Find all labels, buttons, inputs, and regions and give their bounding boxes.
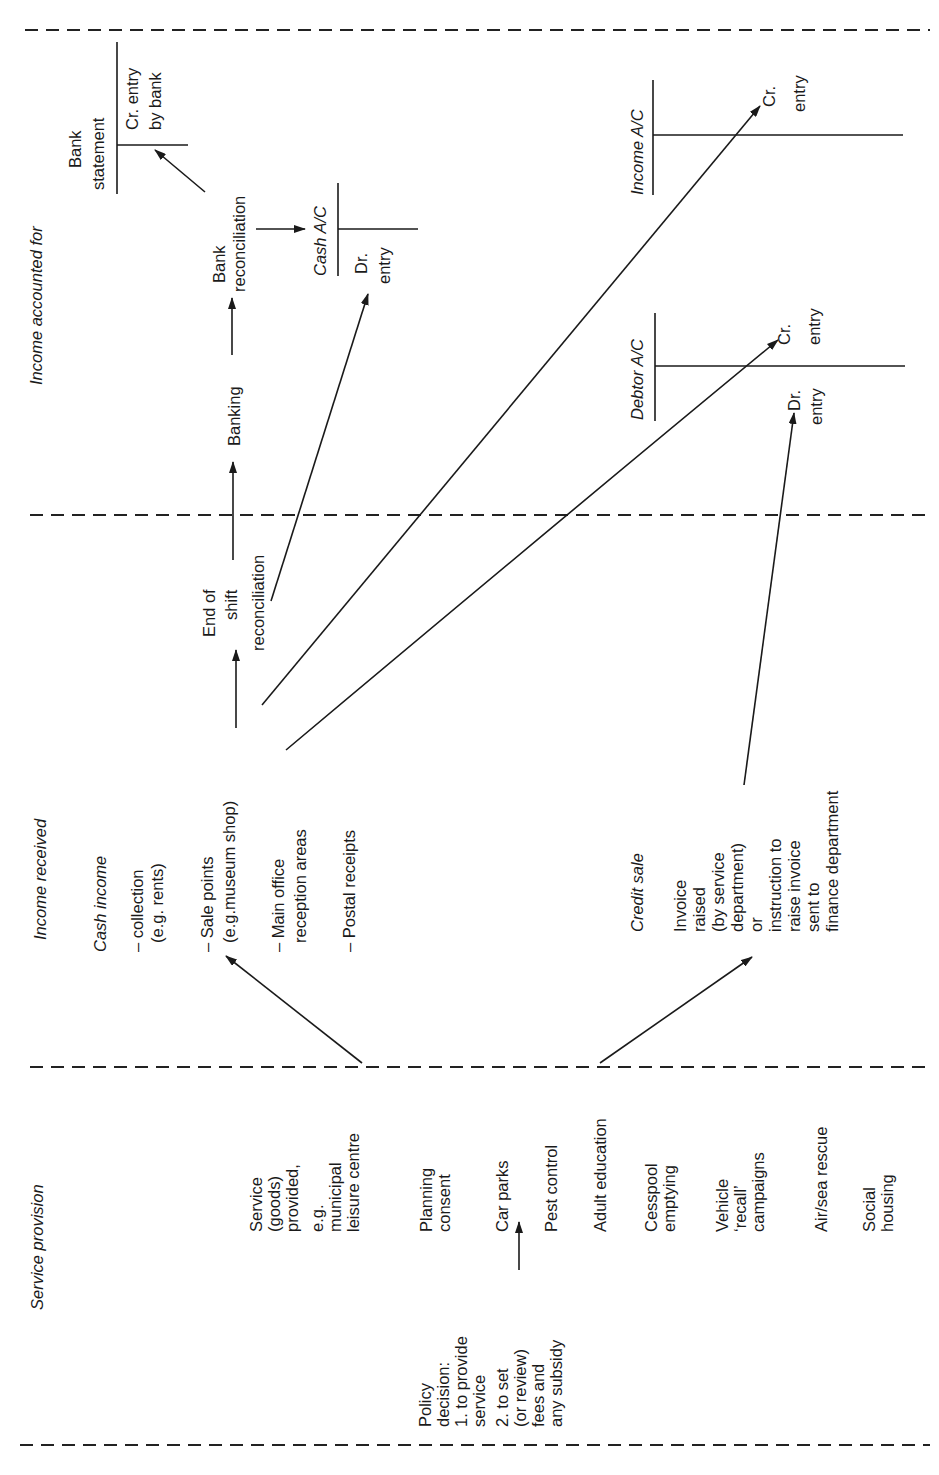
svg-text:consent: consent: [435, 1174, 453, 1232]
section-title-provision: Service provision: [28, 1184, 46, 1310]
svg-text:Car parks: Car parks: [493, 1160, 511, 1232]
svg-text:decision:: decision:: [434, 1362, 452, 1427]
svg-text:reconciliation: reconciliation: [230, 196, 248, 292]
svg-text:(e.g. rents): (e.g. rents): [148, 863, 166, 943]
svg-text:– Main office: – Main office: [269, 859, 287, 952]
svg-text:Income A/C: Income A/C: [628, 109, 646, 195]
credit-sale: Credit sale Invoice raised (by service d…: [628, 790, 841, 932]
svg-text:Invoice: Invoice: [671, 880, 689, 932]
svg-text:Adult education: Adult education: [591, 1118, 609, 1232]
svg-text:any subsidy: any subsidy: [547, 1339, 565, 1427]
policy-decision: Policy decision: 1. to provide service 2…: [416, 1336, 565, 1427]
banking-label: Banking: [225, 386, 243, 446]
svg-text:Cr.: Cr.: [760, 86, 778, 107]
svg-text:reconciliation: reconciliation: [249, 555, 267, 651]
arrow-service-to-credit: [600, 957, 752, 1063]
svg-text:housing: housing: [878, 1174, 896, 1232]
svg-text:Debtor A/C: Debtor A/C: [628, 339, 646, 420]
svg-text:– Sale points: – Sale points: [198, 857, 216, 952]
svg-text:Policy: Policy: [416, 1382, 434, 1427]
section-title-accounted: Income accounted for: [27, 225, 45, 385]
cash-ac-t-account: Cash A/C Dr. entry: [311, 183, 418, 284]
svg-text:department): department): [728, 843, 746, 932]
svg-text:Cesspool: Cesspool: [642, 1163, 660, 1232]
svg-text:or: or: [747, 917, 765, 932]
svg-text:(e.g.museum shop): (e.g.museum shop): [220, 801, 238, 943]
svg-text:reception areas: reception areas: [291, 829, 309, 943]
income-flow-diagram: Income accounted for Income received Ser…: [0, 0, 939, 1475]
cash-income: Cash income – collection (e.g. rents) – …: [91, 801, 358, 952]
svg-text:Pest control: Pest control: [542, 1145, 560, 1232]
svg-text:shift: shift: [222, 589, 240, 620]
svg-text:emptying: emptying: [660, 1165, 678, 1232]
svg-text:sent to: sent to: [804, 882, 822, 932]
end-of-shift: End of shift reconciliation: [200, 555, 267, 651]
arrow-reconciliation-to-statement: [155, 150, 205, 192]
svg-text:by bank: by bank: [146, 71, 164, 130]
arrow-cash-to-debtor-cr: [286, 340, 778, 750]
svg-text:entry: entry: [807, 388, 825, 425]
svg-text:service: service: [470, 1375, 488, 1427]
svg-text:Cr.: Cr.: [775, 324, 793, 345]
svg-text:Cr. entry: Cr. entry: [123, 67, 141, 130]
svg-text:– Postal receipts: – Postal receipts: [340, 830, 358, 952]
arrow-service-to-cash: [226, 956, 362, 1063]
svg-text:finance department: finance department: [823, 790, 841, 932]
svg-text:leisure centre: leisure centre: [344, 1133, 362, 1232]
service-list: Service (goods) provided, e.g. municipal…: [247, 1118, 896, 1232]
debtor-ac-t-account: Debtor A/C Dr. entry Cr. entry: [628, 308, 905, 425]
svg-text:Social: Social: [860, 1187, 878, 1232]
income-ac-t-account: Income A/C Cr. entry: [628, 75, 903, 195]
arrow-credit-to-debtor-dr: [744, 413, 794, 785]
svg-text:– collection: – collection: [128, 869, 146, 952]
svg-text:provided,: provided,: [283, 1164, 301, 1232]
arrow-shift-to-cash-dr: [271, 294, 368, 601]
svg-text:raised: raised: [690, 887, 708, 932]
svg-text:entry: entry: [790, 75, 808, 112]
arrow-cash-to-income-cr: [262, 106, 760, 705]
svg-text:Dr.: Dr.: [352, 253, 370, 274]
svg-text:e.g.: e.g.: [308, 1204, 326, 1232]
svg-text:Planning: Planning: [417, 1168, 435, 1232]
svg-text:Cash income: Cash income: [91, 856, 109, 952]
bank-reconciliation: Bank reconciliation: [210, 196, 248, 292]
svg-text:Service provision: Service provision: [28, 1184, 46, 1310]
svg-text:raise invoice: raise invoice: [785, 840, 803, 932]
svg-text:‘recall’: ‘recall’: [731, 1185, 749, 1232]
svg-text:1. to provide: 1. to provide: [452, 1336, 470, 1427]
svg-text:(by service: (by service: [709, 852, 727, 932]
section-title-received: Income received: [31, 818, 49, 940]
svg-text:statement: statement: [89, 117, 107, 190]
svg-text:Bank: Bank: [210, 245, 228, 283]
svg-text:(or review): (or review): [511, 1349, 529, 1427]
svg-text:Bank: Bank: [66, 130, 84, 168]
svg-text:Vehicle: Vehicle: [713, 1179, 731, 1232]
svg-text:Service: Service: [247, 1177, 265, 1232]
svg-text:End of: End of: [200, 589, 218, 637]
bank-statement-t-account: Bank statement Cr. entry by bank: [66, 42, 188, 194]
svg-text:campaigns: campaigns: [749, 1152, 767, 1232]
svg-text:2. to set: 2. to set: [493, 1368, 511, 1427]
svg-text:entry: entry: [375, 247, 393, 284]
svg-text:Credit sale: Credit sale: [628, 853, 646, 932]
svg-text:Dr.: Dr.: [785, 390, 803, 411]
svg-text:Air/sea rescue: Air/sea rescue: [812, 1127, 830, 1232]
svg-text:Cash A/C: Cash A/C: [311, 206, 329, 276]
svg-text:instruction to: instruction to: [766, 838, 784, 932]
svg-text:municipal: municipal: [326, 1162, 344, 1232]
svg-text:(goods): (goods): [265, 1176, 283, 1232]
svg-text:fees and: fees and: [529, 1364, 547, 1427]
svg-text:entry: entry: [805, 308, 823, 345]
